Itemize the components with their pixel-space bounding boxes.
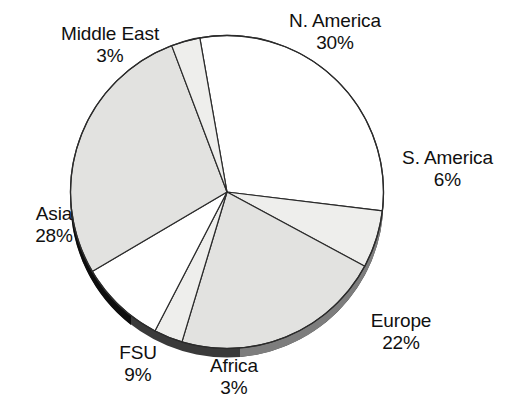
pie-label-fsu-value: 9% [92, 364, 184, 386]
pie-label-africa: Africa 3% [182, 355, 286, 399]
pie-label-europe-name: Europe [342, 310, 460, 332]
pie-label-asia-value: 28% [8, 225, 100, 247]
pie-label-s-america-value: 6% [388, 169, 507, 191]
pie-label-middle-east-name: Middle East [30, 23, 190, 45]
pie-label-africa-name: Africa [182, 355, 286, 377]
pie-chart-page: N. America 30% S. America 6% Europe 22% … [0, 0, 507, 417]
pie-label-n-america-value: 30% [255, 32, 415, 54]
pie-label-middle-east-value: 3% [30, 45, 190, 67]
pie-label-fsu: FSU 9% [92, 342, 184, 386]
pie-label-n-america-name: N. America [255, 10, 415, 32]
pie-label-s-america-name: S. America [388, 147, 507, 169]
pie-label-europe: Europe 22% [342, 310, 460, 354]
pie-label-europe-value: 22% [342, 332, 460, 354]
pie-label-asia: Asia 28% [8, 203, 100, 247]
pie-slices-group [71, 36, 384, 349]
pie-slice-n-america[interactable] [200, 36, 384, 211]
pie-label-middle-east: Middle East 3% [30, 23, 190, 67]
pie-label-s-america: S. America 6% [388, 147, 507, 191]
pie-label-asia-name: Asia [8, 203, 100, 225]
pie-label-n-america: N. America 30% [255, 10, 415, 54]
pie-label-africa-value: 3% [182, 377, 286, 399]
pie-label-fsu-name: FSU [92, 342, 184, 364]
